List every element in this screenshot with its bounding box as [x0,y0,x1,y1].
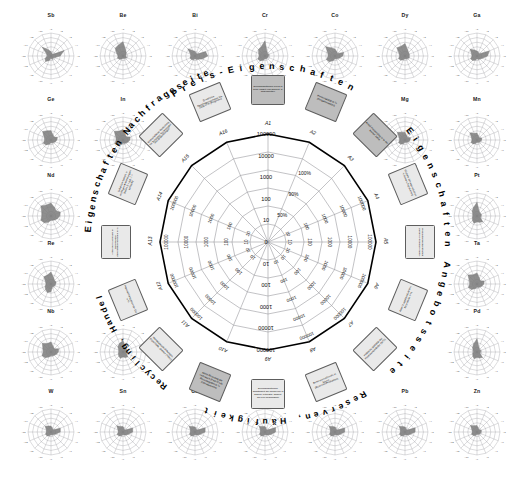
svg-text:A11: A11 [456,370,461,372]
svg-text:A4: A4 [501,128,504,130]
svg-text:A2: A2 [60,326,63,328]
svg-text:A15: A15 [456,36,461,38]
mini-radar-symbol: Re [14,240,88,246]
axis-card-text: Erwartetes Nachfragewachstum bis 2030 in… [194,92,226,112]
svg-text:A12: A12 [168,65,173,67]
svg-text:A2: A2 [486,30,489,32]
mini-radar-symbol: Ga [440,12,514,18]
svg-text:A6: A6 [75,293,78,295]
svg-text:A8: A8 [60,80,63,82]
svg-text:A3: A3 [283,412,286,414]
svg-text:A13: A13 [166,431,171,433]
svg-text:A2: A2 [274,30,277,32]
svg-text:A15: A15 [314,412,319,414]
mini-radar-symbol: Ge [14,96,88,102]
svg-text:A13: A13 [448,351,453,353]
svg-text:A9: A9 [476,458,479,460]
svg-text:A3: A3 [353,36,356,38]
svg-text:A11: A11 [456,158,461,160]
svg-text:A6: A6 [75,441,78,443]
svg-text:A5: A5 [503,215,506,217]
svg-text:A13: A13 [376,431,381,433]
svg-text:A13: A13 [94,431,99,433]
svg-text:A11: A11 [30,234,35,236]
axis-card-a1[interactable]: Durchschnittlicher Preis in 1000 USD/t (… [251,75,285,105]
svg-text:A8: A8 [486,164,489,166]
svg-text:A7: A7 [141,74,144,76]
axis-card-a13[interactable]: Anteil der Nachfrage in wachsenden Zukun… [101,225,131,259]
svg-text:A16: A16 [39,258,44,260]
mini-radar-symbol: W [14,388,88,394]
svg-text:A1: A1 [194,404,197,406]
mini-radar-mn: MnA1A2A3A4A5A6A7A8A9A10A11A12A13A14A15A1… [440,96,514,180]
svg-text:100: 100 [307,238,312,246]
svg-text:A11: A11 [30,302,35,304]
svg-text:A10: A10 [323,456,328,458]
svg-text:A3: A3 [69,196,72,198]
svg-text:A16: A16 [323,30,328,32]
svg-text:A11: A11 [456,234,461,236]
svg-text:A4: A4 [75,204,78,206]
svg-text:A4: A4 [75,44,78,46]
svg-text:A11: A11 [102,450,107,452]
svg-text:A5: A5 [149,431,152,433]
axis-card-a5[interactable]: Produktionskonzentration Länder (Herfind… [405,225,435,259]
mini-radar-plot: A1A2A3A4A5A6A7A8A9A10A11A12A13A14A15A16 [16,20,86,94]
svg-text:A13: A13 [306,55,311,57]
svg-text:A2: A2 [204,30,207,32]
axis-card-a9[interactable]: Durchschnittlicher Schatzwert der Reserv… [251,379,285,409]
svg-text:A15: A15 [244,36,249,38]
svg-text:A1: A1 [122,404,125,406]
svg-text:A15: A15 [30,412,35,414]
svg-text:A10: A10 [465,456,470,458]
svg-text:A6: A6 [501,225,504,227]
svg-text:10: 10 [263,217,269,223]
svg-text:A11: A11 [30,450,35,452]
svg-text:A2: A2 [132,406,135,408]
axis-card-text: Durchschnittlicher Schatzwert der Reserv… [253,388,284,399]
svg-text:A7: A7 [495,370,498,372]
svg-text:A11: A11 [30,158,35,160]
svg-text:A12: A12 [168,441,173,443]
svg-text:A6: A6 [359,65,362,67]
svg-text:A7: A7 [69,158,72,160]
svg-text:A2: A2 [344,30,347,32]
svg-text:A4: A4 [501,272,504,274]
svg-text:100: 100 [302,253,310,262]
svg-text:A10: A10 [183,456,188,458]
svg-text:A14: A14 [450,204,455,206]
svg-text:A10: A10 [465,80,470,82]
svg-text:A9: A9 [194,458,197,460]
svg-text:A1: A1 [264,28,267,30]
svg-text:A13: A13 [448,431,453,433]
svg-text:A13: A13 [94,139,99,141]
axis-tick-a13: A13 [147,234,153,248]
svg-text:A1: A1 [476,28,479,30]
svg-text:A2: A2 [486,406,489,408]
svg-text:A8: A8 [414,456,417,458]
svg-text:A7: A7 [353,450,356,452]
svg-text:A7: A7 [69,450,72,452]
svg-text:A14: A14 [168,420,173,422]
svg-text:A3: A3 [495,264,498,266]
svg-text:A9: A9 [264,458,267,460]
svg-text:100: 100 [226,253,234,262]
svg-text:A12: A12 [24,293,29,295]
mini-radar-symbol: Pt [440,172,514,178]
svg-text:A7: A7 [495,158,498,160]
axis-card-text: Anteil Recycling am Verbrauch (End-of-Li… [193,371,226,393]
svg-text:A2: A2 [60,30,63,32]
svg-text:A15: A15 [30,264,35,266]
axis-card-text: Produktionskonzentration Länder (Herfind… [417,227,423,258]
svg-text:A5: A5 [431,431,434,433]
svg-text:A14: A14 [378,44,383,46]
svg-text:A15: A15 [456,120,461,122]
svg-text:A14: A14 [96,128,101,130]
svg-text:A14: A14 [450,420,455,422]
svg-text:A3: A3 [141,412,144,414]
mini-radar-symbol: Ta [440,240,514,246]
svg-text:A8: A8 [60,456,63,458]
svg-text:A14: A14 [24,272,29,274]
svg-text:A6: A6 [429,441,432,443]
axis-card-text: Preisvolatilität in % (Dreijahresmittel) [311,93,342,110]
